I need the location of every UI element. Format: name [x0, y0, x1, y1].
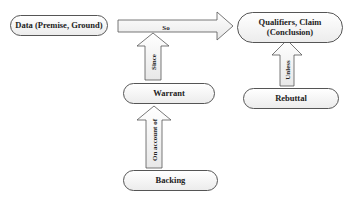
warrant-node: Warrant: [123, 83, 215, 104]
rebuttal-node: Rebuttal: [243, 88, 339, 109]
claim-node: Qualifiers, Claim (Conclusion): [237, 12, 343, 43]
warrant-node-label: Warrant: [153, 89, 185, 99]
data-node: Data (Premise, Ground): [10, 15, 108, 36]
claim-node-line2: (Conclusion): [267, 28, 313, 38]
backing-node-label: Backing: [156, 176, 186, 186]
unless-label: Unless: [284, 60, 292, 80]
since-arrow: Since: [137, 33, 169, 80]
since-label: Since: [150, 54, 158, 70]
unless-arrow: Unless: [272, 40, 302, 86]
on-account-of-label: On account of: [151, 118, 159, 161]
so-label: So: [162, 24, 170, 32]
backing-node: Backing: [123, 170, 218, 191]
rebuttal-node-label: Rebuttal: [275, 94, 307, 104]
so-arrow: So: [118, 12, 233, 40]
on-account-of-arrow: On account of: [137, 106, 171, 168]
toulmin-diagram: So Since Unless On account of Data (Prem…: [0, 0, 351, 200]
data-node-label: Data (Premise, Ground): [15, 21, 102, 31]
